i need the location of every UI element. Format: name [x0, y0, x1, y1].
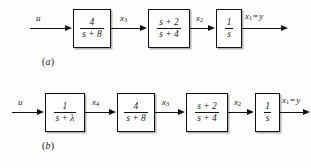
caption-b: (b)	[42, 140, 54, 151]
wire-b-output	[280, 112, 304, 113]
wire-b-1-2	[85, 112, 110, 113]
block-a-2: s + 2 s + 4	[148, 9, 190, 48]
block-a-1: 4 s + 8	[73, 9, 111, 48]
input-label-u: u	[18, 97, 23, 107]
wire-a-2-3	[190, 28, 209, 29]
transfer-function-b-1: 1 s + λ	[54, 102, 77, 124]
signal-label-a-x3: x3	[120, 13, 127, 23]
block-diagram-figure: u 4 s + 8 x3 s + 2 s + 4 x2	[0, 0, 311, 168]
arrowhead-b-1-2	[109, 109, 116, 115]
wire-b-3-4	[228, 112, 248, 113]
signal-label-b-x2: x2	[234, 97, 241, 107]
arrowhead-a-1-2	[140, 25, 147, 31]
wire-a-1-2	[111, 28, 141, 29]
wire-input	[30, 28, 66, 29]
signal-label-b-x1-equals-y: x1=y	[282, 95, 300, 105]
arrowhead-a-2-3	[208, 25, 215, 31]
arrowhead-b-3-4	[247, 109, 254, 115]
arrowhead-b-output	[303, 109, 310, 115]
arrowhead-b-2-3	[178, 109, 185, 115]
block-b-2: 4 s + 8	[117, 93, 155, 132]
block-diagram-a: u 4 s + 8 x3 s + 2 s + 4 x2	[0, 0, 311, 84]
transfer-function-b-2: 4 s + 8	[124, 102, 148, 124]
wire-input	[12, 112, 38, 113]
transfer-function-b-3: s + 2 s + 4	[195, 102, 219, 124]
block-b-1: 1 s + λ	[45, 93, 85, 132]
caption-a: (a)	[42, 56, 54, 67]
block-b-4: 1 s	[255, 93, 280, 132]
transfer-function-b-4: 1 s	[263, 102, 272, 124]
wire-a-output	[242, 28, 282, 29]
transfer-function-a-2: s + 2 s + 4	[157, 18, 181, 40]
input-label-u: u	[36, 13, 41, 23]
signal-label-a-x2: x2	[196, 13, 203, 23]
arrowhead-input	[37, 109, 44, 115]
signal-label-b-x4: x4	[92, 97, 99, 107]
transfer-function-a-1: 4 s + 8	[80, 18, 104, 40]
arrowhead-a-output	[281, 25, 288, 31]
wire-b-2-3	[155, 112, 179, 113]
signal-label-b-x3: x3	[162, 97, 169, 107]
transfer-function-a-3: 1 s	[225, 18, 234, 40]
arrowhead-input	[65, 25, 72, 31]
block-a-3: 1 s	[216, 9, 242, 48]
block-b-3: s + 2 s + 4	[186, 93, 228, 132]
signal-label-a-x1-equals-y: x1=y	[245, 11, 263, 21]
block-diagram-b: u 1 s + λ x4 4 s + 8 x3	[0, 84, 311, 168]
